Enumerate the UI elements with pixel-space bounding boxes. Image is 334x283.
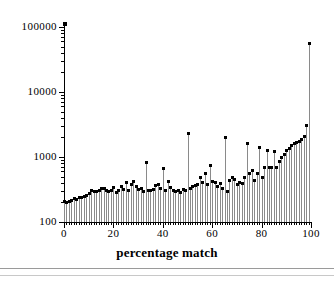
x-tick-minor: [195, 222, 196, 225]
x-tick-minor: [225, 222, 226, 225]
stem-bar: [108, 191, 109, 222]
x-tick-minor: [291, 222, 292, 225]
x-tick-label: 40: [143, 228, 183, 239]
data-point-marker: [300, 138, 303, 141]
x-tick-minor: [185, 222, 186, 225]
stem-bar: [227, 192, 228, 222]
x-tick-minor: [183, 222, 184, 225]
x-tick-minor: [123, 222, 124, 225]
x-tick-minor: [247, 222, 248, 225]
x-tick-minor: [190, 222, 191, 225]
stem-bar: [66, 202, 67, 222]
data-point-marker: [263, 166, 266, 169]
x-tick-minor: [188, 222, 189, 225]
data-point-marker: [224, 136, 227, 139]
x-tick-minor: [294, 222, 295, 225]
x-tick-minor: [205, 222, 206, 225]
data-point-marker: [117, 189, 120, 192]
stem-bar: [234, 180, 235, 222]
stem-bar: [96, 192, 97, 222]
stem-bar: [101, 188, 102, 222]
x-tick-minor: [158, 222, 159, 225]
y-tick-label: 100000: [22, 21, 57, 32]
x-tick-minor: [269, 222, 270, 225]
x-tick-minor: [207, 222, 208, 225]
stem-bar: [237, 184, 238, 222]
data-point-marker: [233, 178, 236, 181]
x-tick-minor: [106, 222, 107, 225]
stem-bar: [113, 188, 114, 222]
stem-bar: [180, 193, 181, 222]
x-tick-minor: [301, 222, 302, 225]
stem-bar: [269, 167, 270, 222]
data-point-marker: [167, 180, 170, 183]
x-tick-minor: [116, 222, 117, 225]
x-tick-minor: [178, 222, 179, 225]
x-tick-minor: [180, 222, 181, 225]
stem-bar: [279, 162, 280, 222]
stem-bar: [232, 178, 233, 222]
x-tick-minor: [74, 222, 75, 225]
x-tick-minor: [150, 222, 151, 225]
stem-bar: [294, 144, 295, 222]
stem-bar: [84, 197, 85, 222]
x-tick-minor: [99, 222, 100, 225]
data-point-marker: [199, 176, 202, 179]
stem-bar: [89, 194, 90, 222]
x-tick-minor: [146, 222, 147, 225]
data-point-marker: [164, 189, 167, 192]
x-tick-minor: [259, 222, 260, 225]
stem-bar: [71, 200, 72, 222]
x-tick-label: 0: [44, 228, 84, 239]
stem-bar: [210, 165, 211, 222]
stem-bar: [257, 173, 258, 222]
stem-bar: [188, 134, 189, 223]
stem-bar: [111, 190, 112, 222]
x-tick-minor: [136, 222, 137, 225]
x-tick-minor: [84, 222, 85, 225]
data-point-marker: [251, 169, 254, 172]
stem-bar: [175, 192, 176, 222]
data-point-marker: [246, 142, 249, 145]
x-tick-minor: [101, 222, 102, 225]
stem-bar: [91, 191, 92, 222]
x-tick-minor: [108, 222, 109, 225]
stem-bar: [222, 188, 223, 222]
x-tick-minor: [126, 222, 127, 225]
x-tick-minor: [71, 222, 72, 225]
stem-bar: [299, 141, 300, 222]
data-point-marker: [162, 167, 165, 170]
x-tick-minor: [138, 222, 139, 225]
stem-bar: [202, 183, 203, 222]
stem-bar: [150, 190, 151, 222]
stem-bar: [239, 183, 240, 222]
data-point-marker: [206, 183, 209, 186]
x-tick-minor: [94, 222, 95, 225]
stem-bar: [155, 186, 156, 222]
stem-bar: [79, 198, 80, 222]
stem-bar: [148, 191, 149, 222]
data-point-marker: [273, 150, 276, 153]
x-tick-minor: [239, 222, 240, 225]
stem-bar: [289, 149, 290, 222]
data-point-marker: [219, 182, 222, 185]
data-point-marker: [132, 180, 135, 183]
x-tick-minor: [304, 222, 305, 225]
x-tick-label: 60: [192, 228, 232, 239]
data-point-marker: [305, 124, 308, 127]
x-tick-minor: [210, 222, 211, 225]
data-point-marker: [112, 186, 115, 189]
x-tick-minor: [279, 222, 280, 225]
stem-bar: [284, 154, 285, 222]
stem-bar: [212, 182, 213, 223]
data-point-marker: [243, 176, 246, 179]
x-tick-label: 80: [242, 228, 282, 239]
x-tick-minor: [121, 222, 122, 225]
x-tick-minor: [155, 222, 156, 225]
data-point-marker: [122, 188, 125, 191]
stem-bar: [106, 191, 107, 222]
x-tick-minor: [284, 222, 285, 225]
x-tick-minor: [76, 222, 77, 225]
x-tick-minor: [289, 222, 290, 225]
y-tick-label: 10000: [28, 86, 58, 97]
